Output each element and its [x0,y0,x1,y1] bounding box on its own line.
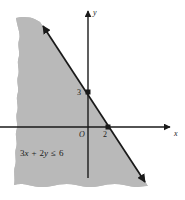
inequality-graph-figure: x y 3 O 2 3x+2y≤6 [0,0,185,200]
x-intercept-marker [106,125,111,130]
y-intercept-marker [86,90,91,95]
inequality-constant: 6 [59,148,64,158]
y-axis-label: y [92,8,97,17]
inequality-var-y: y [43,148,48,158]
shaded-solution-region [0,0,185,200]
x-intercept-tick-label: 2 [103,130,107,139]
inequality-relation: ≤ [51,148,56,158]
y-intercept-tick-label: 3 [77,88,81,97]
inequality-plus: + [32,148,37,158]
inequality-var-x: x [24,148,29,158]
origin-label: O [79,130,85,139]
graph-canvas: x y 3 O 2 3x+2y≤6 [0,0,185,200]
x-axis-label: x [173,129,178,138]
